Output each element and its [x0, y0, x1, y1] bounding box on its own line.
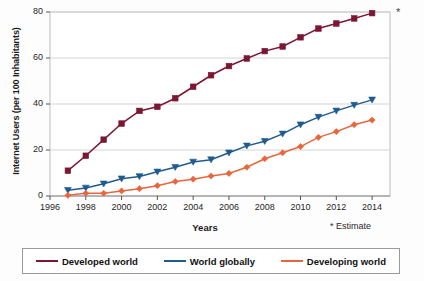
legend-swatch-developing: [281, 260, 303, 262]
x-tick-label: 2014: [355, 202, 389, 212]
x-tick-label: 2004: [176, 202, 210, 212]
chart-legend: Developed world World globally Developin…: [22, 248, 400, 274]
x-tick-label: 2010: [284, 202, 318, 212]
x-tick-label: 2008: [248, 202, 282, 212]
x-tick-label: 2000: [105, 202, 139, 212]
legend-swatch-developed: [36, 260, 58, 262]
legend-item: World globally: [164, 256, 255, 267]
plot-area: Internet Users (per 100 Inhabitants) 020…: [0, 0, 424, 240]
legend-label: Developing world: [307, 256, 386, 267]
x-tick-label: 2012: [319, 202, 353, 212]
x-tick-label: 2002: [140, 202, 174, 212]
x-tick-label: 2006: [212, 202, 246, 212]
y-tick-label: 60: [17, 52, 43, 62]
y-tick-label: 0: [17, 190, 43, 200]
x-axis-label: Years: [150, 222, 260, 233]
chart-figure: Internet Users (per 100 Inhabitants) 020…: [0, 0, 424, 281]
estimate-asterisk-marker: *: [396, 6, 400, 18]
y-tick-label: 20: [17, 144, 43, 154]
legend-label: World globally: [190, 256, 255, 267]
x-tick-label: 1996: [33, 202, 67, 212]
legend-swatch-world: [164, 260, 186, 262]
estimate-note: * Estimate: [330, 221, 371, 231]
legend-item: Developing world: [281, 256, 386, 267]
y-tick-label: 80: [17, 6, 43, 16]
legend-item: Developed world: [36, 256, 138, 267]
x-tick-label: 1998: [69, 202, 103, 212]
y-tick-label: 40: [17, 98, 43, 108]
legend-label: Developed world: [62, 256, 138, 267]
